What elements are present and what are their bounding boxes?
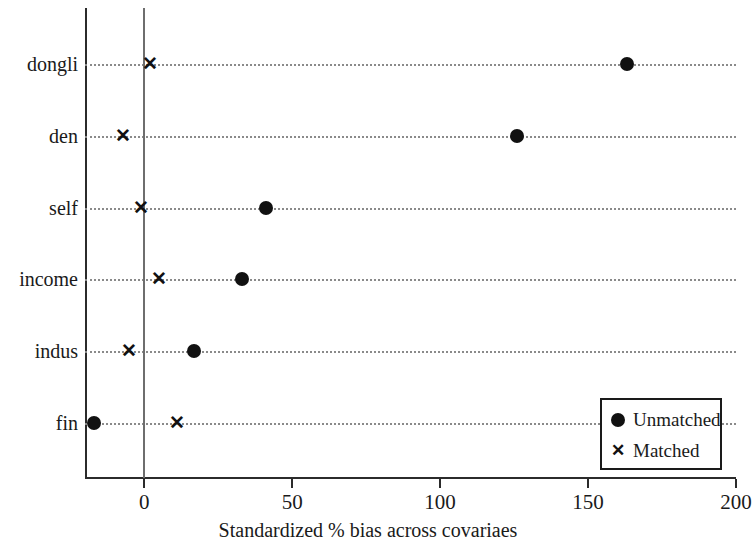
x-tick-label-100: 100 — [424, 491, 456, 513]
datapoint-matched-den: ✕ — [115, 128, 131, 144]
y-axis-label-den: den — [0, 126, 78, 146]
datapoint-matched-fin: ✕ — [169, 415, 185, 431]
gridline-income — [85, 279, 736, 281]
zero-reference-line — [143, 8, 145, 478]
gridline-dongli — [85, 64, 736, 66]
x-axis-spine — [85, 477, 736, 479]
gridline-den — [85, 136, 736, 138]
x-tick-150 — [587, 479, 589, 488]
x-tick-label-200: 200 — [720, 491, 752, 513]
y-axis-label-income: income — [0, 269, 78, 289]
datapoint-matched-income: ✕ — [151, 271, 167, 287]
y-axis-label-dongli: dongli — [0, 54, 78, 74]
y-axis-label-self: self — [0, 198, 78, 218]
x-tick-0 — [143, 479, 145, 488]
legend-item-matched: ✕ Matched — [608, 435, 714, 466]
x-tick-50 — [291, 479, 293, 488]
legend-label-matched: Matched — [628, 441, 699, 461]
x-tick-200 — [735, 479, 737, 488]
legend-label-unmatched: Unmatched — [628, 410, 721, 430]
gridline-indus — [85, 351, 736, 353]
datapoint-matched-self: ✕ — [133, 200, 149, 216]
y-axis-spine — [85, 8, 87, 478]
datapoint-unmatched-income — [235, 272, 249, 286]
x-tick-label-50: 50 — [282, 491, 303, 513]
datapoint-matched-dongli: ✕ — [142, 56, 158, 72]
y-axis-label-fin: fin — [0, 413, 78, 433]
x-tick-label-150: 150 — [572, 491, 604, 513]
x-tick-100 — [439, 479, 441, 488]
legend: Unmatched ✕ Matched — [600, 398, 722, 470]
datapoint-unmatched-self — [259, 201, 273, 215]
datapoint-matched-indus: ✕ — [121, 343, 137, 359]
y-axis-label-indus: indus — [0, 341, 78, 361]
datapoint-unmatched-dongli — [620, 57, 634, 71]
datapoint-unmatched-indus — [187, 344, 201, 358]
x-marker-icon: ✕ — [608, 441, 628, 461]
datapoint-unmatched-den — [510, 129, 524, 143]
legend-item-unmatched: Unmatched — [608, 404, 714, 435]
x-tick-label-0: 0 — [139, 491, 150, 513]
x-axis-title: Standardized % bias across covariaes — [0, 519, 736, 541]
datapoint-unmatched-fin — [87, 416, 101, 430]
gridline-self — [85, 208, 736, 210]
filled-circle-marker-icon — [608, 410, 628, 430]
